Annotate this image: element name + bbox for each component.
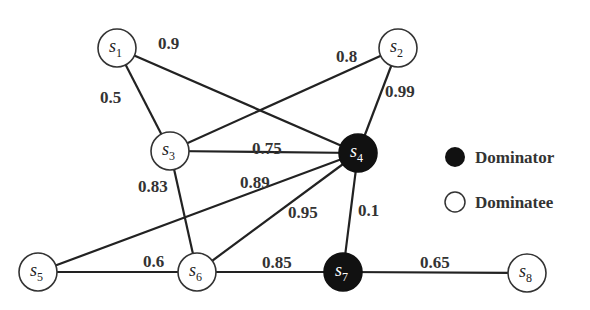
edge-weight-s1-s3: 0.5 <box>100 88 121 107</box>
node-s8: s8 <box>508 254 546 292</box>
node-s6: s6 <box>178 253 216 291</box>
dominator-symbol-icon <box>445 147 465 167</box>
edge-weight-s4-s5: 0.89 <box>240 173 270 192</box>
edge-weight-s7-s8: 0.65 <box>420 253 450 272</box>
node-s4: s4 <box>339 134 377 172</box>
node-s3: s3 <box>151 132 189 170</box>
legend-item-dominator: Dominator <box>445 147 555 167</box>
node-s1: s1 <box>98 29 136 67</box>
edge-weight-s2-s4: 0.99 <box>385 82 415 101</box>
legend-item-dominatee: Dominatee <box>445 192 554 212</box>
legend-label-dominator: Dominator <box>475 148 555 167</box>
edge-weight-s1-s4: 0.9 <box>158 34 179 53</box>
legend: Dominator Dominatee <box>445 147 555 212</box>
edge-weight-s4-s7: 0.1 <box>358 201 379 220</box>
legend-label-dominatee: Dominatee <box>475 193 554 212</box>
edge-weight-s3-s6: 0.83 <box>138 177 168 196</box>
dominatee-symbol-icon <box>445 192 465 212</box>
dominator-graph: 0.50.90.80.990.750.830.890.950.10.60.850… <box>0 0 590 310</box>
edge-s7-s8 <box>343 272 527 273</box>
node-s5: s5 <box>19 253 57 291</box>
edge-weight-s5-s6: 0.6 <box>143 252 164 271</box>
edge-weight-s4-s6: 0.95 <box>288 203 318 222</box>
edge-s1-s4 <box>117 48 358 153</box>
edge-weight-s6-s7: 0.85 <box>262 253 292 272</box>
edge-weight-s2-s3: 0.8 <box>336 47 357 66</box>
node-s7: s7 <box>324 253 362 291</box>
node-s2: s2 <box>379 29 417 67</box>
edge-weight-s3-s4: 0.75 <box>252 139 282 158</box>
